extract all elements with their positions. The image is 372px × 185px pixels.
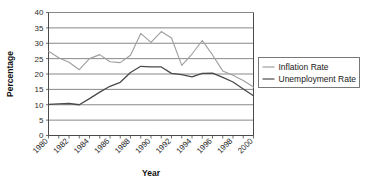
- x-tick-label: 1998: [215, 136, 234, 155]
- x-tick-label: 1990: [133, 136, 152, 155]
- x-tick-label: 1992: [154, 136, 173, 155]
- x-tick-label: 1986: [92, 136, 111, 155]
- data-series-group: [49, 32, 254, 105]
- series-line-inflation-rate: [49, 32, 254, 87]
- x-tick-label: 1994: [174, 136, 193, 155]
- x-tick-label: 1982: [51, 136, 70, 155]
- legend-label-inflation-rate: Inflation Rate: [279, 62, 329, 72]
- y-axis-tick-labels: 0510152025303540: [35, 8, 49, 140]
- y-tick-label: 25: [35, 55, 44, 64]
- y-tick-label: 35: [35, 24, 44, 33]
- x-tick-label: 1988: [113, 136, 132, 155]
- y-tick-label: 15: [35, 85, 44, 94]
- legend-label-unemployment-rate: Unemployment Rate: [279, 74, 357, 84]
- gridlines-group: [49, 13, 254, 136]
- x-tick-marks-group: [49, 136, 254, 139]
- line-chart: 0510152025303540 19801982198419861988199…: [0, 0, 372, 185]
- x-tick-label: 1984: [72, 136, 91, 155]
- x-tick-label: 2000: [236, 136, 255, 155]
- y-tick-label: 10: [35, 101, 44, 110]
- y-tick-label: 5: [39, 116, 44, 125]
- x-tick-label: 1980: [31, 136, 50, 155]
- y-tick-label: 20: [35, 70, 44, 79]
- y-tick-label: 40: [35, 8, 44, 17]
- chart-legend: Inflation RateUnemployment Rate: [259, 58, 360, 88]
- y-tick-label: 30: [35, 39, 44, 48]
- y-axis-title: Percentage: [5, 51, 15, 97]
- x-axis-title: Year: [142, 168, 161, 178]
- x-axis-tick-labels: 1980198219841986198819901992199419961998…: [31, 136, 255, 155]
- series-line-unemployment-rate: [49, 66, 254, 104]
- x-tick-label: 1996: [195, 136, 214, 155]
- chart-canvas: 0510152025303540 19801982198419861988199…: [0, 0, 372, 185]
